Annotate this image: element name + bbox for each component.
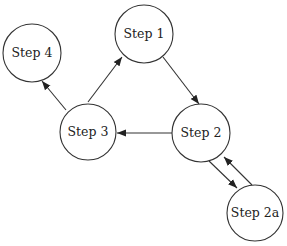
node-label: Step 3 bbox=[68, 124, 109, 139]
node-step2a: Step 2a bbox=[227, 185, 283, 241]
node-step3: Step 3 bbox=[60, 104, 116, 160]
arrow-step2a-to-step2 bbox=[224, 157, 252, 185]
arrow-step1-to-step2 bbox=[163, 57, 199, 104]
node-step1: Step 1 bbox=[115, 5, 173, 63]
nodes: Step 1Step 2Step 2aStep 3Step 4 bbox=[3, 5, 283, 241]
arrow-step3-to-step4 bbox=[42, 81, 66, 110]
node-step2: Step 2 bbox=[172, 104, 230, 162]
node-label: Step 2 bbox=[181, 125, 222, 140]
node-label: Step 4 bbox=[12, 45, 53, 60]
flow-diagram: Step 1Step 2Step 2aStep 3Step 4 bbox=[0, 0, 287, 246]
node-step4: Step 4 bbox=[3, 24, 61, 82]
node-label: Step 2a bbox=[231, 205, 280, 220]
node-label: Step 1 bbox=[124, 26, 165, 41]
arrow-step3-to-step1 bbox=[88, 57, 122, 102]
